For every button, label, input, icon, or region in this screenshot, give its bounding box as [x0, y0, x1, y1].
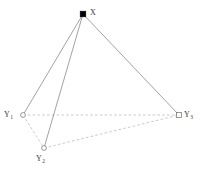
node-markers: [21, 11, 182, 150]
node-label-y1: Y1: [4, 111, 13, 119]
node-label-x: X: [90, 9, 96, 17]
node-label-y3: Y3: [184, 111, 193, 119]
node-label-x-text: X: [90, 8, 96, 17]
tetrahedron-diagram: X Y1 Y2 Y3: [0, 0, 203, 172]
node-marker-y2[interactable]: [42, 146, 47, 151]
node-marker-y1[interactable]: [21, 113, 26, 118]
node-label-y3-sub: 3: [190, 114, 193, 120]
diagram-canvas: [0, 0, 203, 172]
edge-x-y2: [44, 14, 83, 148]
node-label-y2-sub: 2: [42, 158, 45, 164]
edge-y2-y3: [44, 115, 179, 148]
solid-edges: [23, 14, 179, 148]
edge-y1-y2: [23, 115, 44, 148]
edge-x-y1: [23, 14, 83, 115]
dashed-edges: [23, 115, 179, 148]
node-marker-y3[interactable]: [177, 113, 182, 118]
node-label-y1-sub: 1: [10, 114, 13, 120]
node-marker-x[interactable]: [80, 11, 86, 17]
edge-x-y3: [83, 14, 179, 115]
node-label-y2: Y2: [36, 155, 45, 163]
